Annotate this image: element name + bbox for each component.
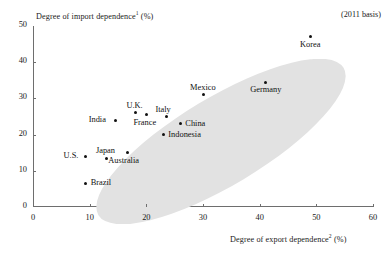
x-tick-label: 30 — [189, 213, 217, 222]
x-tick-label: 40 — [246, 213, 274, 222]
data-point — [264, 81, 267, 84]
data-point-label: Italy — [155, 105, 170, 114]
data-point — [165, 115, 168, 118]
y-tick-label: 10 — [0, 165, 27, 174]
data-point-label: Germany — [250, 85, 281, 94]
x-tick-label: 60 — [359, 213, 387, 222]
data-point — [105, 157, 108, 160]
y-tick-label: 20 — [0, 129, 27, 138]
data-point-label: Korea — [300, 40, 320, 49]
y-tick-mark — [33, 62, 36, 63]
data-point-label: Australia — [108, 156, 139, 165]
data-point-label: France — [133, 118, 156, 127]
x-tick-mark — [316, 204, 317, 207]
data-point-label: Brazil — [91, 178, 111, 187]
data-point — [162, 133, 165, 136]
y-axis-title: Degree of import dependence1 (%) — [36, 10, 153, 21]
basis-note: (2011 basis) — [341, 10, 381, 19]
x-axis-title: Degree of export dependence2 (%) — [230, 233, 347, 244]
x-tick-label: 50 — [302, 213, 330, 222]
x-tick-mark — [203, 204, 204, 207]
x-tick-label: 0 — [19, 213, 47, 222]
y-tick-label: 30 — [0, 92, 27, 101]
data-point-label: India — [89, 115, 106, 124]
data-point — [202, 93, 205, 96]
x-tick-mark — [90, 204, 91, 207]
data-point — [114, 119, 117, 122]
y-tick-mark — [33, 171, 36, 172]
y-tick-label: 40 — [0, 56, 27, 65]
data-point-label: China — [185, 119, 205, 128]
scatter-chart-figure: Degree of import dependence1 (%) Degree … — [0, 0, 390, 254]
y-tick-mark — [33, 135, 36, 136]
x-tick-mark — [146, 204, 147, 207]
data-point-label: Indonesia — [168, 130, 201, 139]
x-tick-mark — [373, 204, 374, 207]
data-point-label: U.S. — [64, 151, 79, 160]
plot-area — [33, 26, 373, 207]
y-axis-title-text: Degree of import dependence — [36, 12, 136, 21]
y-axis-title-unit: (%) — [139, 12, 154, 21]
trend-ellipse — [76, 59, 366, 224]
x-axis-title-unit: (%) — [332, 235, 347, 244]
data-point-label: U.K. — [126, 101, 142, 110]
y-tick-mark — [33, 98, 36, 99]
data-point-label: Japan — [96, 146, 115, 155]
x-tick-label: 10 — [76, 213, 104, 222]
y-tick-label: 0 — [0, 201, 27, 210]
y-tick-label: 50 — [0, 20, 27, 29]
x-tick-mark — [260, 204, 261, 207]
x-axis-title-text: Degree of export dependence — [230, 235, 329, 244]
x-tick-label: 20 — [132, 213, 160, 222]
data-point-label: Mexico — [190, 83, 216, 92]
